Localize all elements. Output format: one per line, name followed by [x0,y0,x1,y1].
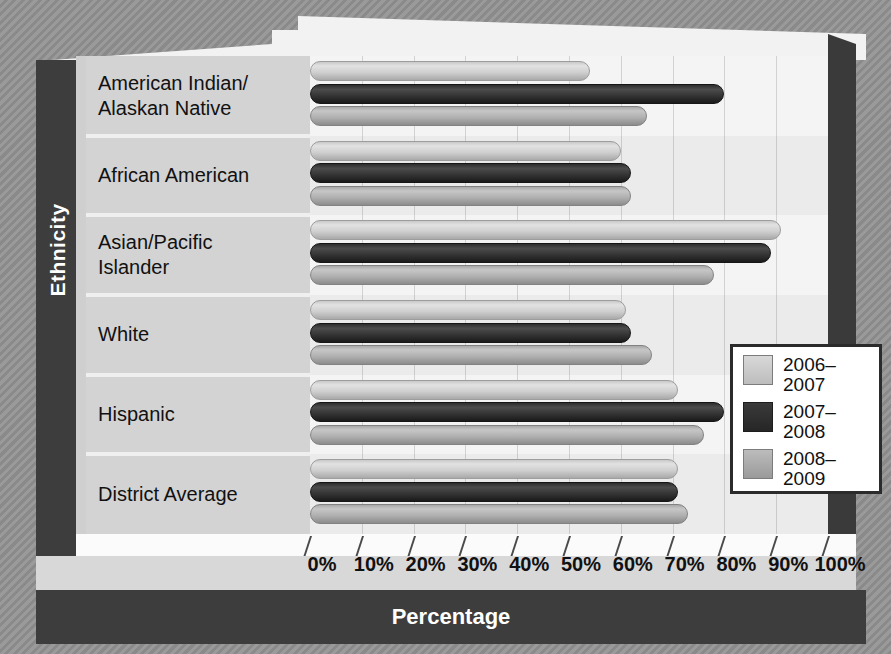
bar-body [310,186,631,206]
category-label-column: American Indian/Alaskan NativeAfrican Am… [86,56,310,534]
legend-label: 2006–2007 [783,355,836,395]
bar-body [310,141,621,161]
x-axis-tick-label: 0% [308,553,337,576]
bar-2008-2009-0 [310,106,647,126]
category-label-text: African American [98,163,249,188]
chart-top-face [36,16,866,60]
x-axis-tick-label: 50% [561,553,601,576]
bar-body [310,482,678,502]
bar-2007-2008-0 [310,84,724,104]
x-axis-title: Percentage [36,590,866,644]
bar-2007-2008-4 [310,402,724,422]
category-separator [86,293,310,297]
x-axis-tick-label: 80% [716,553,756,576]
category-label: Asian/PacificIslander [86,215,310,295]
bar-2007-2008-5 [310,482,678,502]
category-label: District Average [86,454,310,534]
category-label: American Indian/Alaskan Native [86,56,310,136]
y-axis-spine: Ethnicity [36,60,76,570]
bar-body [310,504,688,524]
bar-2007-2008-1 [310,163,631,183]
x-axis-tick-label: 100% [814,553,865,576]
bar-body [310,220,781,240]
category-label-text: Asian/PacificIslander [98,230,213,280]
bar-body [310,243,771,263]
x-axis-tick-label: 60% [613,553,653,576]
category-label: Hispanic [86,375,310,455]
bar-2008-2009-5 [310,504,688,524]
bar-body [310,163,631,183]
bar-2008-2009-3 [310,345,652,365]
category-label-text: White [98,322,149,347]
category-label: White [86,295,310,375]
category-separator [86,452,310,456]
bar-2007-2008-3 [310,323,631,343]
bar-body [310,380,678,400]
category-label-text: American Indian/Alaskan Native [98,71,248,121]
bar-2008-2009-2 [310,265,714,285]
bar-body [310,459,678,479]
bar-2006-2007-1 [310,141,621,161]
x-axis-tick-label: 10% [354,553,394,576]
bar-2007-2008-2 [310,243,771,263]
x-axis-tick-label: 40% [509,553,549,576]
bar-body [310,61,590,81]
bar-body [310,106,647,126]
legend-item[interactable]: 2007–2008 [743,402,873,442]
bar-body [310,265,714,285]
bar-2006-2007-3 [310,300,626,320]
bar-body [310,323,631,343]
chart-legend: 2006–20072007–20082008–2009 [730,344,882,494]
chart-background-frame: Ethnicity American Indian/Alaskan Native… [0,0,891,654]
legend-item[interactable]: 2006–2007 [743,355,873,395]
category-separator [86,213,310,217]
bar-body [310,300,626,320]
bar-body [310,84,724,104]
y-axis-title: Ethnicity [38,180,78,320]
bar-2006-2007-2 [310,220,781,240]
spine-shade [76,56,86,570]
legend-item[interactable]: 2008–2009 [743,449,873,489]
category-separator [86,373,310,377]
category-label: African American [86,136,310,216]
chart-right-face [828,34,870,594]
bar-2008-2009-4 [310,425,704,445]
x-axis-tick-label: 30% [457,553,497,576]
legend-label: 2008–2009 [783,449,836,489]
chart-3d-container: Ethnicity American Indian/Alaskan Native… [18,16,870,628]
legend-label: 2007–2008 [783,402,836,442]
bar-2006-2007-4 [310,380,678,400]
bar-2006-2007-5 [310,459,678,479]
x-axis-tick-label: 90% [768,553,808,576]
bar-body [310,402,724,422]
legend-swatch [743,355,773,385]
legend-swatch [743,402,773,432]
category-label-text: Hispanic [98,402,175,427]
category-separator [86,134,310,138]
bar-2006-2007-0 [310,61,590,81]
bar-2008-2009-1 [310,186,631,206]
category-label-text: District Average [98,482,238,507]
x-axis-tick-label: 20% [406,553,446,576]
x-axis-tick-labels: 0%10%20%30%40%50%60%70%80%90%100% [76,533,866,575]
bar-body [310,425,704,445]
bar-body [310,345,652,365]
legend-swatch [743,449,773,479]
x-axis-tick-label: 70% [665,553,705,576]
